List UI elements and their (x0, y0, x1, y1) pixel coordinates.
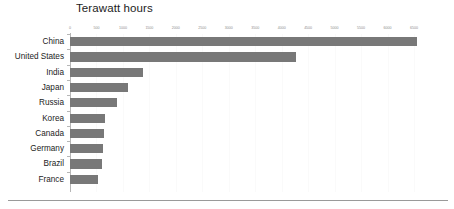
bar-row[interactable] (70, 141, 440, 156)
bar[interactable] (70, 98, 117, 107)
bar[interactable] (70, 175, 98, 184)
x-tick-label: 4500 (304, 24, 312, 32)
bar[interactable] (70, 129, 104, 138)
y-axis-category-labels: ChinaUnited StatesIndiaJapanRussiaKoreaC… (0, 34, 66, 192)
bar[interactable] (70, 159, 102, 168)
bottom-divider (8, 200, 448, 201)
category-tick-mark (67, 172, 70, 173)
x-tick-label: 5000 (331, 24, 339, 32)
category-tick-mark (67, 141, 70, 142)
category-tick-mark (67, 49, 70, 50)
category-tick-mark (67, 65, 70, 66)
bar[interactable] (70, 37, 417, 46)
x-tick-label: 6500 (410, 24, 418, 32)
bar-row[interactable] (70, 126, 440, 141)
x-tick-label: 500 (93, 24, 99, 32)
category-tick-mark (67, 126, 70, 127)
category-tick-mark (67, 34, 70, 35)
x-tick-label: 1000 (119, 24, 127, 32)
category-label: India (0, 65, 66, 80)
bar[interactable] (70, 52, 296, 61)
bar[interactable] (70, 144, 103, 153)
bar[interactable] (70, 83, 128, 92)
bar-row[interactable] (70, 80, 440, 95)
bar-row[interactable] (70, 156, 440, 171)
category-label: Korea (0, 111, 66, 126)
x-axis-tick-labels: 0500100015002000250030003500400045005000… (70, 24, 442, 33)
bar-row[interactable] (70, 111, 440, 126)
bar-row[interactable] (70, 172, 440, 187)
category-label: Germany (0, 141, 66, 156)
x-tick-label: 6000 (384, 24, 392, 32)
bar[interactable] (70, 68, 143, 77)
category-label: China (0, 34, 66, 49)
bar-row[interactable] (70, 49, 440, 64)
bar[interactable] (70, 114, 105, 123)
x-tick-label: 0 (69, 24, 71, 32)
category-tick-mark (67, 111, 70, 112)
x-tick-label: 3000 (225, 24, 233, 32)
x-tick-label: 2500 (198, 24, 206, 32)
bar-row[interactable] (70, 95, 440, 110)
category-tick-mark (67, 95, 70, 96)
category-label: Canada (0, 126, 66, 141)
plot-area (70, 34, 440, 192)
x-tick-label: 1500 (145, 24, 153, 32)
x-tick-label: 5500 (357, 24, 365, 32)
category-label: United States (0, 49, 66, 64)
bar-row[interactable] (70, 34, 440, 49)
category-label: Japan (0, 80, 66, 95)
x-tick-label: 3500 (251, 24, 259, 32)
bar-row[interactable] (70, 65, 440, 80)
category-tick-mark (67, 156, 70, 157)
category-label: Russia (0, 95, 66, 110)
chart-title: Terawatt hours (76, 2, 153, 14)
category-label: France (0, 172, 66, 187)
x-tick-label: 4000 (278, 24, 286, 32)
category-tick-mark (67, 80, 70, 81)
x-tick-label: 2000 (172, 24, 180, 32)
category-label: Brazil (0, 156, 66, 171)
bar-chart: Terawatt hours 0500100015002000250030003… (0, 0, 454, 209)
